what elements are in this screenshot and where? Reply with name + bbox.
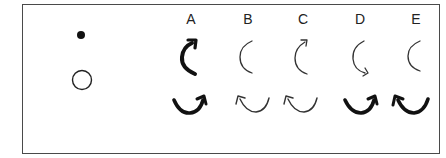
- arc-icon-e-top: [408, 41, 420, 71]
- arc-icon-b-top: [240, 41, 252, 73]
- open-circle-icon: [73, 71, 92, 90]
- u-arrow-icon-c-bottom: [284, 96, 317, 112]
- arc-arrow-icon-a-top: [182, 40, 196, 74]
- arc-arrow-icon-c-top: [295, 40, 307, 74]
- filled-dot-icon: [77, 31, 85, 39]
- u-arrow-icon-d-bottom: [345, 96, 377, 113]
- u-arrow-icon-e-bottom: [393, 96, 428, 113]
- u-arrow-icon-b-bottom: [236, 96, 269, 112]
- arc-arrow-icon-d-top: [353, 41, 368, 76]
- u-arrow-icon-a-bottom: [174, 96, 206, 113]
- rotation-diagram: [0, 0, 446, 158]
